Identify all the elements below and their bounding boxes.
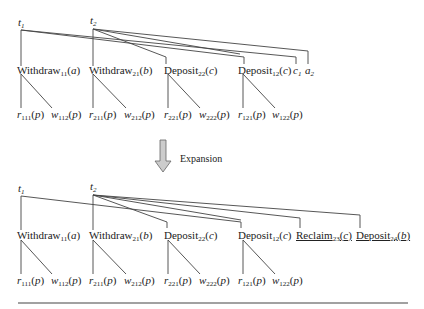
leaf: r111(p) [17, 275, 44, 288]
root-t2: t2 [90, 15, 97, 28]
expansion-label: Expansion [180, 154, 222, 164]
op-withdraw11: Withdraw11(a) [17, 230, 80, 243]
root-t2: t2 [90, 181, 97, 194]
leaf: w122(p) [272, 109, 303, 122]
op-deposit22: Deposit22(c) [164, 65, 217, 78]
op-deposit12: Deposit12(c) [238, 65, 291, 78]
leaf: r111(p) [17, 109, 44, 122]
op-withdraw21: Withdraw21(b) [89, 65, 152, 78]
leaf: w212(p) [124, 275, 155, 288]
root-t1: t1 [18, 17, 25, 30]
leaf: r211(p) [89, 275, 116, 288]
leaf: w222(p) [199, 275, 230, 288]
down-arrow-icon [155, 140, 171, 172]
leaf: r121(p) [238, 109, 266, 122]
leaf: w222(p) [199, 109, 230, 122]
op-deposit12: Deposit12(c) [238, 230, 291, 243]
leaf: w212(p) [124, 109, 155, 122]
terminal-a2: a2 [305, 65, 314, 78]
terminal-c1: c1 [293, 65, 301, 78]
op-deposit22: Deposit22(c) [164, 230, 217, 243]
leaf: w112(p) [51, 109, 81, 122]
root-t1: t1 [18, 183, 25, 196]
leaf: r121(p) [238, 275, 266, 288]
leaf: r221(p) [164, 275, 192, 288]
op-withdraw21: Withdraw21(b) [89, 230, 152, 243]
op-deposit24: Deposit24(b) [356, 230, 410, 243]
leaf: w122(p) [272, 275, 303, 288]
leaf: w112(p) [51, 275, 81, 288]
op-withdraw11: Withdraw11(a) [17, 65, 80, 78]
leaf: r221(p) [164, 109, 192, 122]
leaf: r211(p) [89, 109, 116, 122]
op-reclaim23: Reclaim23(c) [296, 230, 352, 243]
